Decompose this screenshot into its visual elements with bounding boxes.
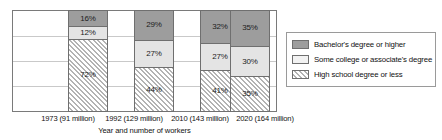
bar-value-label: 27% bbox=[212, 53, 228, 61]
bar-value-label: 27% bbox=[146, 50, 162, 58]
bar-value-label: 35% bbox=[242, 24, 258, 32]
bar-segment-bachelor: 16% bbox=[68, 10, 108, 26]
bar-value-label: 44% bbox=[145, 86, 163, 94]
legend-swatch-icon bbox=[292, 55, 309, 64]
legend-swatch-icon bbox=[292, 70, 309, 79]
x-axis-title: Year and number of workers bbox=[12, 126, 277, 135]
legend-swatch-icon bbox=[292, 40, 309, 49]
bar-segment-high-school: 44% bbox=[134, 67, 174, 112]
bars-layer: 72% 12% 16% 44% 27% 29% 41% bbox=[12, 10, 277, 112]
bar-group-2020: 35% 30% 35% bbox=[230, 10, 270, 112]
chart-legend: Bachelor's degree or higher Some college… bbox=[286, 32, 436, 87]
bar-value-label: 35% bbox=[241, 90, 259, 98]
bar-value-label: 32% bbox=[212, 23, 228, 31]
legend-item-high-school: High school degree or less bbox=[292, 68, 430, 81]
legend-item-label: High school degree or less bbox=[314, 70, 402, 79]
stacked-bar-chart: 72% 12% 16% 44% 27% 29% 41% bbox=[0, 0, 442, 140]
bar-value-label: 12% bbox=[80, 29, 96, 37]
bar-segment-some-college: 12% bbox=[68, 26, 108, 38]
legend-item-some-college: Some college or associate's degree bbox=[292, 53, 430, 66]
x-axis-tick-2020: 2020 (164 million) bbox=[215, 114, 315, 123]
bar-segment-some-college: 30% bbox=[230, 46, 270, 77]
bar-value-label: 72% bbox=[79, 71, 97, 79]
bar-segment-some-college: 27% bbox=[134, 40, 174, 68]
legend-item-bachelor: Bachelor's degree or higher bbox=[292, 38, 430, 51]
bar-value-label: 41% bbox=[211, 87, 229, 95]
bar-segment-bachelor: 35% bbox=[230, 10, 270, 46]
bar-group-1973: 72% 12% 16% bbox=[68, 10, 108, 112]
bar-value-label: 16% bbox=[80, 15, 96, 23]
bar-segment-bachelor: 29% bbox=[134, 10, 174, 40]
bar-group-1992: 44% 27% 29% bbox=[134, 10, 174, 112]
bar-value-label: 29% bbox=[146, 21, 162, 29]
legend-item-label: Bachelor's degree or higher bbox=[314, 40, 406, 49]
bar-segment-high-school: 72% bbox=[68, 39, 108, 112]
bar-segment-high-school: 35% bbox=[230, 76, 270, 112]
bar-value-label: 30% bbox=[242, 58, 258, 66]
legend-item-label: Some college or associate's degree bbox=[314, 55, 432, 64]
